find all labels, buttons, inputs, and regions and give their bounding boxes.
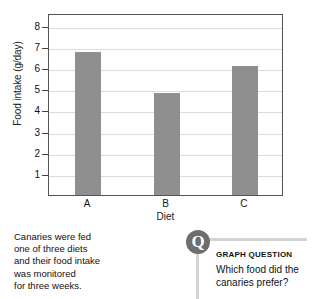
y-tick-label: 3 bbox=[34, 128, 40, 138]
question-line: Which food did the bbox=[216, 264, 321, 277]
y-tick-mark bbox=[42, 175, 48, 176]
caption-line: and their food intake bbox=[14, 255, 154, 267]
question-vertical-rule bbox=[196, 252, 199, 299]
x-axis-title: Diet bbox=[48, 211, 283, 222]
bar bbox=[232, 66, 258, 195]
bar bbox=[154, 93, 180, 195]
y-tick-mark bbox=[42, 111, 48, 112]
y-tick-mark bbox=[42, 154, 48, 155]
y-tick-mark bbox=[42, 133, 48, 134]
caption-line: one of three diets bbox=[14, 243, 154, 255]
caption-line: was monitored bbox=[14, 268, 154, 280]
question-horizontal-rule bbox=[208, 238, 307, 241]
graph-question-text: Which food did thecanaries prefer? bbox=[216, 264, 321, 289]
caption-line: Canaries were fed bbox=[14, 231, 154, 243]
bar bbox=[75, 52, 101, 195]
chart-caption: Canaries were fedone of three dietsand t… bbox=[14, 231, 154, 292]
graph-question-block: Q GRAPH QUESTION Which food did thecanar… bbox=[186, 230, 321, 295]
x-tick-label: C bbox=[240, 198, 247, 209]
y-axis-tick-labels: 12345678 bbox=[26, 0, 40, 200]
y-tick-label: 5 bbox=[34, 85, 40, 95]
y-tick-mark bbox=[42, 69, 48, 70]
x-tick-label: B bbox=[162, 198, 169, 209]
y-tick-mark bbox=[42, 27, 48, 28]
question-line: canaries prefer? bbox=[216, 277, 321, 290]
y-tick-label: 4 bbox=[34, 106, 40, 116]
y-axis-title: Food intake (g/day) bbox=[12, 19, 23, 149]
x-axis-tick-labels: ABC bbox=[48, 198, 283, 212]
x-tick-label: A bbox=[84, 198, 91, 209]
question-mark-icon: Q bbox=[186, 230, 210, 254]
graph-question-heading: GRAPH QUESTION bbox=[216, 250, 292, 259]
y-tick-label: 2 bbox=[34, 149, 40, 159]
caption-line: for three weeks. bbox=[14, 280, 154, 292]
y-tick-mark bbox=[42, 90, 48, 91]
bar-chart-figure: Food intake (g/day) 12345678 ABC Diet bbox=[0, 0, 321, 222]
y-tick-label: 8 bbox=[34, 22, 40, 32]
bars-layer bbox=[49, 15, 282, 195]
y-tick-label: 1 bbox=[34, 170, 40, 180]
y-tick-mark bbox=[42, 48, 48, 49]
y-tick-label: 6 bbox=[34, 64, 40, 74]
y-tick-label: 7 bbox=[34, 43, 40, 53]
plot-area bbox=[48, 14, 283, 196]
